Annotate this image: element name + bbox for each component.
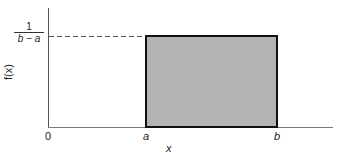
y-tick-fraction: 1 b − a: [14, 21, 44, 44]
density-rectangle: [146, 36, 277, 127]
y-axis-label: f(x): [2, 64, 14, 80]
fraction-denominator: b − a: [14, 33, 44, 44]
b-tick-label: b: [274, 130, 280, 142]
a-tick-label: a: [143, 130, 149, 142]
y-axis-label-text: f(x): [2, 64, 14, 80]
fraction-numerator: 1: [14, 21, 44, 33]
origin-label: 0: [45, 130, 51, 142]
x-axis-label: x: [166, 142, 172, 154]
